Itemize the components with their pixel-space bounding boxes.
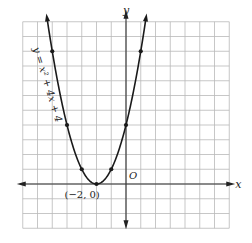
data-point (65, 123, 69, 127)
data-point (94, 182, 98, 186)
axes (17, 10, 236, 230)
vertex-label: (−2, 0) (65, 189, 100, 200)
data-point (124, 123, 128, 127)
labels: y x O (−2, 0) y = x² + 4x + 4 (31, 4, 242, 200)
parabola-graph: y x O (−2, 0) y = x² + 4x + 4 (0, 0, 252, 243)
equation-label: y = x² + 4x + 4 (31, 45, 65, 124)
data-point (80, 167, 84, 171)
x-axis-label: x (235, 178, 242, 191)
x-axis-left-arrow-icon (17, 182, 26, 187)
origin-label: O (129, 170, 137, 181)
data-point (109, 167, 113, 171)
y-axis-label: y (122, 4, 130, 17)
x-axis-right-arrow-icon (226, 182, 235, 187)
data-point (50, 49, 54, 53)
data-point (139, 49, 143, 53)
